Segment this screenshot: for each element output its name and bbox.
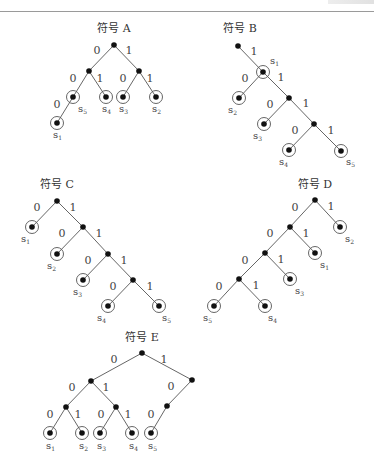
edge-bit-label: 1 bbox=[147, 280, 154, 293]
internal-node-dot bbox=[130, 277, 136, 283]
edge-bit-label: 0 bbox=[94, 44, 101, 57]
internal-node-dot bbox=[311, 121, 317, 127]
leaf-node-dot bbox=[338, 148, 344, 154]
code-tree-a: 符号 A0101010s5s4s3s2s1 bbox=[51, 22, 163, 141]
leaf-node-dot bbox=[312, 250, 318, 256]
leaf-node-dot bbox=[262, 303, 268, 309]
edge-bit-label: 1 bbox=[303, 97, 310, 110]
leaf-node-dot bbox=[261, 121, 267, 127]
edge-bit-label: 0 bbox=[267, 227, 274, 240]
edge-bit-label: 1 bbox=[328, 200, 335, 213]
symbol-label-s3: s3 bbox=[119, 103, 128, 115]
internal-node-dot bbox=[235, 43, 241, 49]
symbol-label-s4: s4 bbox=[102, 103, 111, 115]
tree-title: 符号 C bbox=[40, 178, 74, 191]
leaf-node-dot bbox=[29, 224, 35, 230]
symbol-label-s4: s4 bbox=[268, 312, 277, 324]
code-tree-d: 符号 D01010101s2s1s3s5s4 bbox=[203, 178, 354, 324]
symbol-label-s1: s1 bbox=[53, 129, 62, 141]
edge-bit-label: 0 bbox=[216, 280, 223, 293]
edge-bit-label: 1 bbox=[278, 253, 285, 266]
internal-node-dot bbox=[80, 224, 86, 230]
leaf-node-dot bbox=[79, 430, 85, 436]
symbol-label-s5: s5 bbox=[162, 312, 171, 324]
code-tree-b: 符号 B1010101s1s2s3s4s5 bbox=[223, 22, 355, 168]
edge-bit-label: 1 bbox=[70, 201, 77, 214]
code-trees-figure: 符号 A0101010s5s4s3s2s1符号 B1010101s1s2s3s4… bbox=[0, 0, 374, 473]
internal-node-dot bbox=[105, 251, 111, 257]
code-tree-e: 符号 E0101001010s1s2s3s4s5 bbox=[44, 331, 195, 452]
edge-bit-label: 0 bbox=[34, 201, 41, 214]
tree-edge bbox=[263, 72, 289, 98]
internal-node-dot bbox=[111, 42, 117, 48]
symbol-label-s5: s5 bbox=[203, 312, 212, 324]
edge-bit-label: 0 bbox=[54, 98, 61, 111]
leaf-node-dot bbox=[148, 430, 154, 436]
leaf-node-dot bbox=[103, 94, 109, 100]
edge-bit-label: 0 bbox=[242, 72, 249, 85]
edge-bit-label: 1 bbox=[125, 408, 132, 421]
edge-bit-label: 0 bbox=[70, 72, 77, 85]
edge-bit-label: 1 bbox=[278, 71, 285, 84]
edge-bit-label: 1 bbox=[126, 44, 133, 57]
edge-bit-label: 0 bbox=[292, 124, 299, 137]
symbol-label-s2: s2 bbox=[79, 440, 88, 452]
internal-node-dot bbox=[312, 197, 318, 203]
edge-bit-label: 1 bbox=[97, 72, 104, 85]
edge-bit-label: 1 bbox=[251, 45, 258, 58]
symbol-label-s5: s5 bbox=[346, 156, 355, 168]
edge-bit-label: 1 bbox=[253, 279, 260, 292]
edge-bit-label: 0 bbox=[148, 408, 155, 421]
leaf-node-dot bbox=[97, 430, 103, 436]
leaf-node-dot bbox=[47, 430, 53, 436]
internal-node-dot bbox=[113, 404, 119, 410]
leaf-node-dot bbox=[337, 224, 343, 230]
leaf-node-dot bbox=[70, 94, 76, 100]
edge-bit-label: 0 bbox=[98, 408, 105, 421]
symbol-label-s1: s1 bbox=[270, 55, 279, 67]
symbol-label-s3: s3 bbox=[97, 440, 106, 452]
symbol-label-s2: s2 bbox=[345, 233, 354, 245]
leaf-node-dot bbox=[286, 147, 292, 153]
symbol-label-s5: s5 bbox=[78, 103, 87, 115]
symbol-label-s2: s2 bbox=[47, 260, 56, 272]
leaf-node-dot bbox=[80, 277, 86, 283]
symbol-label-s5: s5 bbox=[148, 440, 157, 452]
edge-bit-label: 0 bbox=[168, 380, 175, 393]
leaf-node-dot bbox=[54, 251, 60, 257]
symbol-label-s3: s3 bbox=[295, 285, 304, 297]
symbol-label-s1: s1 bbox=[320, 259, 329, 271]
tree-title: 符号 B bbox=[223, 22, 257, 35]
symbol-label-s3: s3 bbox=[253, 130, 262, 142]
symbol-label-s2: s2 bbox=[228, 104, 237, 116]
edge-bit-label: 0 bbox=[292, 201, 299, 214]
internal-node-dot bbox=[286, 95, 292, 101]
symbol-label-s4: s4 bbox=[97, 312, 106, 324]
leaf-node-dot bbox=[287, 276, 293, 282]
leaf-node-dot bbox=[54, 120, 60, 126]
edge-bit-label: 0 bbox=[69, 381, 76, 394]
edge-bit-label: 0 bbox=[120, 72, 127, 85]
tree-edge bbox=[289, 98, 314, 124]
internal-node-dot bbox=[287, 224, 293, 230]
internal-node-dot bbox=[86, 68, 92, 74]
edge-bit-label: 0 bbox=[242, 254, 249, 267]
edge-bit-label: 1 bbox=[103, 381, 110, 394]
leaf-node-dot bbox=[236, 95, 242, 101]
edge-bit-label: 1 bbox=[121, 254, 128, 267]
internal-node-dot bbox=[54, 198, 60, 204]
symbol-label-s1: s1 bbox=[21, 233, 30, 245]
symbol-label-s3: s3 bbox=[73, 286, 82, 298]
symbol-label-s1: s1 bbox=[46, 440, 55, 452]
internal-node-dot bbox=[139, 350, 145, 356]
edge-bit-label: 0 bbox=[59, 227, 66, 240]
edge-bit-label: 0 bbox=[267, 98, 274, 111]
edge-bit-label: 1 bbox=[161, 353, 168, 366]
edge-bit-label: 0 bbox=[47, 408, 54, 421]
internal-node-dot bbox=[262, 250, 268, 256]
leaf-node-dot bbox=[105, 303, 111, 309]
leaf-node-dot bbox=[260, 69, 266, 75]
leaf-node-dot bbox=[129, 430, 135, 436]
tree-title: 符号 D bbox=[298, 178, 332, 191]
internal-node-dot bbox=[236, 276, 242, 282]
